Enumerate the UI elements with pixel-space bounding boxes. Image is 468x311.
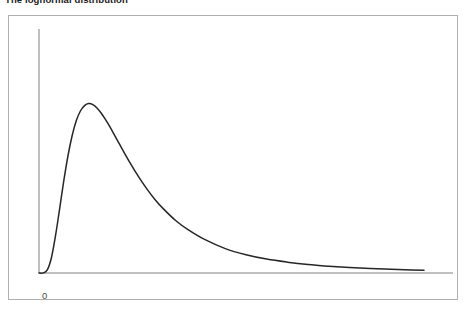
chart-page: The lognormal distribution 0 xyxy=(0,0,468,311)
lognormal-curve xyxy=(39,104,424,274)
chart-title-clip: The lognormal distribution xyxy=(0,0,468,6)
x-axis-zero-tick-label: 0 xyxy=(42,291,47,301)
page-title: The lognormal distribution xyxy=(5,0,128,5)
chart-frame: 0 xyxy=(8,15,458,300)
lognormal-plot xyxy=(9,16,457,299)
